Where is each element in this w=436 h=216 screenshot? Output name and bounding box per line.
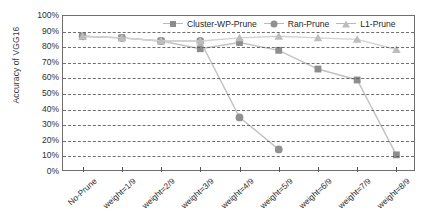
x-tick: [240, 167, 241, 172]
gridline: [63, 156, 414, 157]
x-tick-label: weight=6/9: [297, 176, 334, 210]
y-tick-label: 60%: [3, 72, 59, 82]
gridline: [63, 47, 414, 48]
gridline: [63, 63, 414, 64]
series-line: [83, 36, 397, 155]
gridline: [63, 125, 414, 126]
y-tick-label: 50%: [3, 88, 59, 98]
square-marker-icon: [315, 66, 322, 73]
x-tick-label: weight=7/9: [336, 176, 373, 210]
y-tick-label: 0%: [3, 166, 59, 176]
legend-item[interactable]: Ran-Prune: [264, 19, 330, 29]
x-tick: [357, 167, 358, 172]
gridline: [63, 94, 414, 95]
x-tick: [161, 167, 162, 172]
x-tick: [83, 167, 84, 172]
circle-marker-icon: [236, 114, 244, 122]
x-tick: [396, 167, 397, 172]
x-tick-label: weight=8/9: [375, 176, 412, 210]
x-tick: [318, 167, 319, 172]
x-tick-label: weight=5/9: [258, 176, 295, 210]
series-line: [83, 36, 279, 149]
x-tick-label: weight=3/9: [179, 176, 216, 210]
x-tick: [279, 167, 280, 172]
legend-line: [264, 23, 284, 24]
circle-marker-icon: [275, 145, 283, 153]
x-tick-label: weight=4/9: [218, 176, 255, 210]
legend-label: L1-Prune: [360, 19, 395, 29]
gridline: [63, 32, 414, 33]
y-tick-label: 70%: [3, 57, 59, 67]
legend-line: [163, 23, 183, 24]
x-tick: [122, 167, 123, 172]
y-tick-label: 30%: [3, 119, 59, 129]
y-tick-label: 40%: [3, 104, 59, 114]
gridline: [63, 110, 414, 111]
x-tick: [200, 167, 201, 172]
chart-legend: Cluster-WP-PruneRan-PruneL1-Prune: [160, 17, 399, 30]
circle-marker-icon: [270, 20, 277, 27]
y-tick-label: 20%: [3, 135, 59, 145]
gridline: [63, 78, 414, 79]
y-axis-tick-labels: 100%90%80%70%60%50%40%30%20%10%0%: [0, 15, 59, 171]
chart-container: Accuracy of VGG16 100%90%80%70%60%50%40%…: [0, 0, 436, 216]
legend-line: [336, 23, 356, 24]
y-tick-label: 90%: [3, 26, 59, 36]
triangle-marker-icon: [342, 20, 350, 27]
legend-label: Cluster-WP-Prune: [187, 19, 257, 29]
legend-label: Ran-Prune: [288, 19, 330, 29]
plot-area: [62, 15, 415, 171]
x-tick-label: weight=2/9: [140, 176, 177, 210]
legend-item[interactable]: L1-Prune: [336, 19, 395, 29]
y-tick-label: 80%: [3, 41, 59, 51]
x-tick-label: No-Prune: [65, 176, 98, 207]
x-tick-label: weight=1/9: [101, 176, 138, 210]
y-tick-label: 10%: [3, 150, 59, 160]
square-marker-icon: [170, 21, 176, 27]
legend-item[interactable]: Cluster-WP-Prune: [163, 19, 257, 29]
gridline: [63, 141, 414, 142]
y-tick-label: 100%: [3, 10, 59, 20]
